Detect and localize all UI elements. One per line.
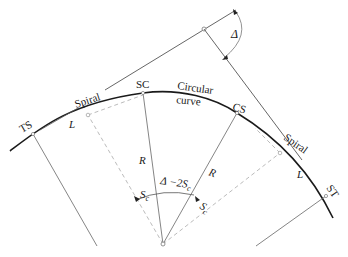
diagram-svg: TS SC CS ST Spiral Circular curve Spiral… bbox=[0, 0, 348, 257]
label-ts: TS bbox=[17, 118, 34, 135]
ts-point bbox=[31, 132, 34, 135]
label-delta-minus-2sc: Δ −2Sc bbox=[158, 174, 192, 193]
st-normal-line bbox=[256, 196, 326, 246]
label-spiral-left: Spiral bbox=[73, 90, 102, 110]
label-r-left: R bbox=[138, 154, 146, 166]
dashed-chord-right bbox=[255, 128, 280, 153]
dashed-line-right bbox=[163, 153, 280, 244]
label-l-right: L bbox=[296, 168, 303, 180]
center-point bbox=[161, 242, 165, 246]
label-sc-right: Sc bbox=[197, 199, 213, 217]
dashed-line-left bbox=[88, 115, 163, 244]
label-l-left: L bbox=[68, 118, 75, 130]
spiral-curve-diagram: TS SC CS ST Spiral Circular curve Spiral… bbox=[0, 0, 348, 257]
spiral-center-left bbox=[86, 113, 90, 117]
radius-to-sc bbox=[143, 93, 163, 244]
back-tangent-line bbox=[105, 10, 236, 90]
arc-arrow-right bbox=[195, 196, 200, 202]
label-sc-left: Sc bbox=[140, 188, 150, 203]
st-point bbox=[324, 194, 327, 197]
label-curve: curve bbox=[176, 93, 202, 107]
spiral-center-right bbox=[278, 151, 282, 155]
label-sc: SC bbox=[136, 78, 149, 90]
label-delta-top: Δ bbox=[230, 27, 238, 41]
main-curve bbox=[10, 92, 333, 218]
sc-point bbox=[141, 91, 144, 94]
ts-normal-line bbox=[33, 134, 97, 246]
label-cs: CS bbox=[231, 100, 247, 115]
label-r-right: R bbox=[206, 165, 218, 179]
